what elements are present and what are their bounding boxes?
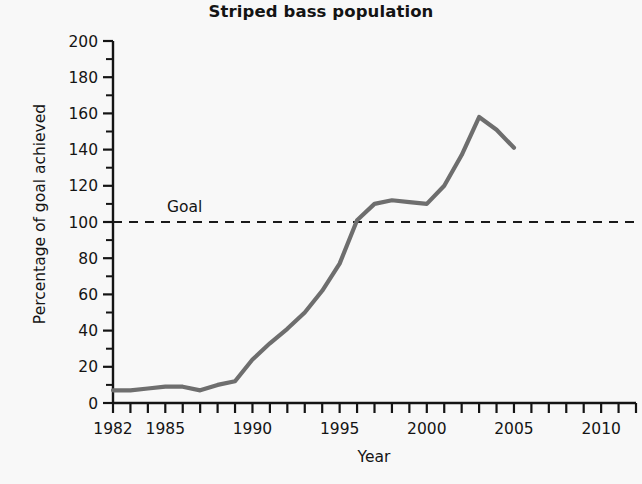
- y-tick-label: 140: [68, 141, 98, 159]
- data-series-group: [113, 117, 514, 390]
- x-axis-group: 1982198519901995200020052010: [93, 403, 636, 438]
- x-tick-label: 2010: [581, 420, 620, 438]
- y-tick-label: 80: [78, 250, 98, 268]
- y-tick-label: 180: [68, 69, 98, 87]
- y-tick-label: 200: [68, 33, 98, 51]
- x-tick-label: 2000: [407, 420, 446, 438]
- goal-label: Goal: [167, 198, 202, 216]
- y-axis-group: 020406080100120140160180200: [68, 33, 113, 413]
- y-tick-label: 40: [78, 322, 98, 340]
- x-tick-label: 1995: [320, 420, 359, 438]
- y-tick-labels: 020406080100120140160180200: [68, 33, 98, 413]
- x-ticks: [113, 403, 636, 413]
- x-tick-label: 1982: [93, 420, 132, 438]
- y-tick-label: 160: [68, 105, 98, 123]
- x-tick-label: 2005: [494, 420, 533, 438]
- x-tick-labels: 1982198519901995200020052010: [93, 420, 621, 438]
- chart-container: Striped bass population Percentage of go…: [0, 0, 642, 484]
- goal-annotation: Goal: [113, 198, 636, 222]
- y-tick-label: 120: [68, 177, 98, 195]
- y-tick-label: 20: [78, 358, 98, 376]
- x-tick-label: 1990: [233, 420, 272, 438]
- data-line-striped-bass: [113, 117, 514, 390]
- y-tick-label: 100: [68, 214, 98, 232]
- y-tick-label: 0: [88, 395, 98, 413]
- y-tick-label: 60: [78, 286, 98, 304]
- plot-area: 020406080100120140160180200 198219851990…: [0, 0, 642, 484]
- x-tick-label: 1985: [146, 420, 185, 438]
